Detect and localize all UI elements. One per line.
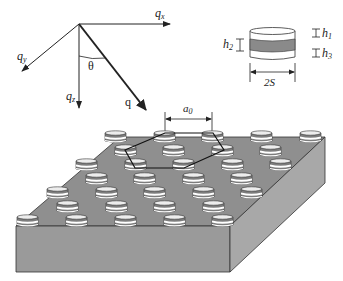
diagram-canvas: qx qy qz q θ h1 h3 h2 2S (0, 0, 343, 281)
a0-label: a0 (183, 102, 193, 116)
h2-label: h2 (223, 37, 233, 52)
h1-label: h1 (322, 26, 332, 41)
qx-label: qx (155, 6, 165, 21)
qy-axis-arrow (22, 24, 79, 71)
width-2s-label: 2S (264, 76, 276, 88)
theta-label: θ (88, 59, 94, 73)
qy-label: qy (17, 49, 27, 64)
q-label: q (125, 95, 131, 109)
disc-inset: h1 h3 h2 2S (223, 26, 332, 88)
h3-label: h3 (322, 46, 332, 61)
substrate-front-face (16, 226, 230, 272)
lattice-spacing: a0 (165, 102, 212, 132)
qz-label: qz (66, 89, 76, 104)
scattering-axes: qx qy qz q θ (17, 6, 170, 110)
